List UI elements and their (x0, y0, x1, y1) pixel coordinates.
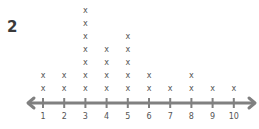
x-mark: x (38, 85, 48, 93)
x-mark: x (123, 72, 133, 80)
x-mark: x (208, 85, 218, 93)
x-mark: x (123, 33, 133, 41)
x-mark: x (186, 72, 196, 80)
x-mark: x (80, 85, 90, 93)
tick-label: 10 (226, 112, 242, 121)
tick-label: 8 (183, 112, 199, 121)
x-mark: x (123, 46, 133, 54)
tick-label: 3 (77, 112, 93, 121)
x-mark: x (144, 85, 154, 93)
tick-label: 6 (141, 112, 157, 121)
tick-label: 1 (35, 112, 51, 121)
x-mark: x (80, 20, 90, 28)
x-mark: x (38, 72, 48, 80)
number-line-axis (28, 98, 255, 108)
x-mark: x (59, 85, 69, 93)
tick-label: 2 (56, 112, 72, 121)
x-mark: x (144, 72, 154, 80)
x-mark: x (80, 72, 90, 80)
x-mark: x (80, 59, 90, 67)
tick-label: 7 (162, 112, 178, 121)
x-mark: x (123, 85, 133, 93)
tick-label: 5 (120, 112, 136, 121)
x-mark: x (229, 85, 239, 93)
x-mark: x (123, 59, 133, 67)
x-mark: x (102, 59, 112, 67)
x-mark: x (80, 33, 90, 41)
x-mark: x (59, 72, 69, 80)
x-mark: x (102, 72, 112, 80)
x-mark: x (102, 46, 112, 54)
x-mark: x (165, 85, 175, 93)
x-mark: x (80, 7, 90, 15)
x-mark: x (186, 85, 196, 93)
tick-label: 4 (99, 112, 115, 121)
x-mark: x (80, 46, 90, 54)
tick-label: 9 (205, 112, 221, 121)
x-mark: x (102, 85, 112, 93)
